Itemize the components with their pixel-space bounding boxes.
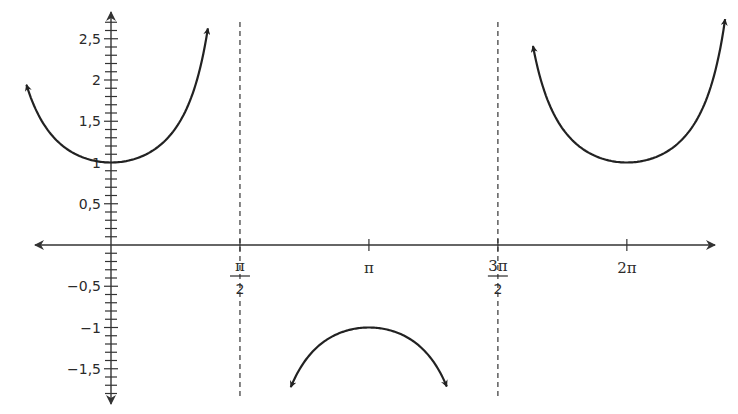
y-tick-label: 1,5 — [79, 113, 101, 129]
secant-branch — [26, 28, 207, 162]
y-tick-label: −0,5 — [67, 278, 101, 294]
x-tick-label-denominator: 2 — [493, 281, 502, 297]
y-tick-label: 2,5 — [79, 31, 101, 47]
asymptote-lines — [240, 22, 498, 396]
y-tick-label: −1,5 — [67, 361, 101, 377]
secant-branch — [533, 19, 725, 162]
secant-branch — [291, 328, 447, 388]
x-axis-ticks: π2π3π22π — [230, 239, 637, 297]
x-tick-label: π — [364, 259, 374, 277]
secant-graph: 2,521,510,5−0,5−1−1,5 π2π3π22π — [0, 0, 738, 414]
y-tick-label: 2 — [92, 72, 101, 88]
secant-curves — [26, 19, 725, 387]
x-tick-label-numerator: π — [235, 257, 245, 275]
x-tick-label-numerator: 3π — [488, 257, 508, 275]
x-tick-label: 2π — [617, 259, 637, 277]
axes — [35, 12, 715, 404]
y-tick-label: 0,5 — [79, 196, 101, 212]
y-tick-label: −1 — [80, 320, 101, 336]
x-tick-label-denominator: 2 — [236, 281, 245, 297]
